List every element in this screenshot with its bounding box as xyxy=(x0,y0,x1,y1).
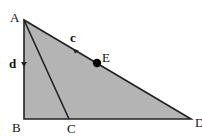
label-segment-c: c xyxy=(70,30,76,45)
geometry-diagram: A B C D E c d xyxy=(0,0,202,137)
label-e: E xyxy=(102,50,110,65)
label-b: B xyxy=(12,120,21,135)
label-d-point: D xyxy=(195,115,202,130)
point-e-dot xyxy=(93,59,101,67)
label-a: A xyxy=(10,10,20,25)
triangle-abd xyxy=(24,20,191,119)
label-c-point: C xyxy=(67,121,76,136)
label-segment-d: d xyxy=(9,56,17,71)
